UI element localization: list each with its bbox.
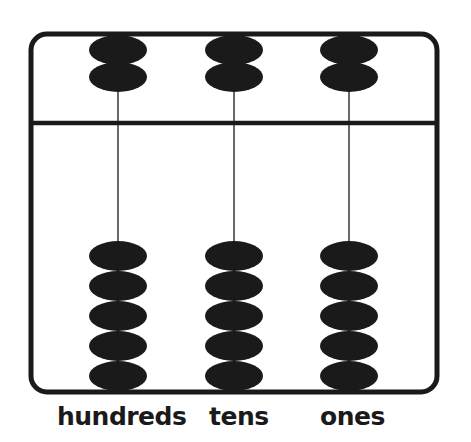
lower-bead (205, 301, 263, 331)
upper-bead (320, 35, 378, 65)
lower-bead (205, 361, 263, 391)
rod-tens (205, 35, 263, 391)
label-hundreds: hundreds (57, 402, 186, 431)
lower-bead (320, 241, 378, 271)
lower-bead (320, 271, 378, 301)
lower-bead (320, 301, 378, 331)
lower-bead (89, 241, 147, 271)
lower-bead (89, 361, 147, 391)
lower-bead (89, 331, 147, 361)
lower-bead (205, 331, 263, 361)
rod-ones (320, 35, 378, 391)
label-tens: tens (209, 402, 269, 431)
lower-bead (89, 301, 147, 331)
lower-bead (205, 271, 263, 301)
upper-bead (320, 62, 378, 92)
rod-hundreds (89, 35, 147, 391)
label-ones: ones (320, 402, 385, 431)
upper-bead (89, 35, 147, 65)
upper-bead (205, 62, 263, 92)
lower-bead (320, 361, 378, 391)
lower-bead (205, 241, 263, 271)
upper-bead (205, 35, 263, 65)
lower-bead (320, 331, 378, 361)
upper-bead (89, 62, 147, 92)
abacus-diagram (0, 0, 471, 442)
lower-bead (89, 271, 147, 301)
